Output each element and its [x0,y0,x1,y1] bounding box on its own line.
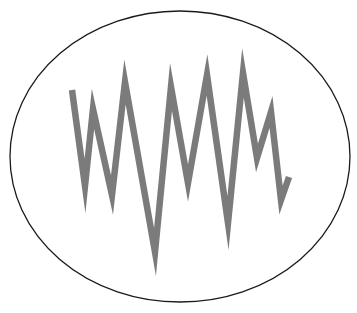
zigzag-line [72,73,289,252]
ellipse-outline [10,11,350,302]
zigzag-ellipse-figure [0,0,357,313]
